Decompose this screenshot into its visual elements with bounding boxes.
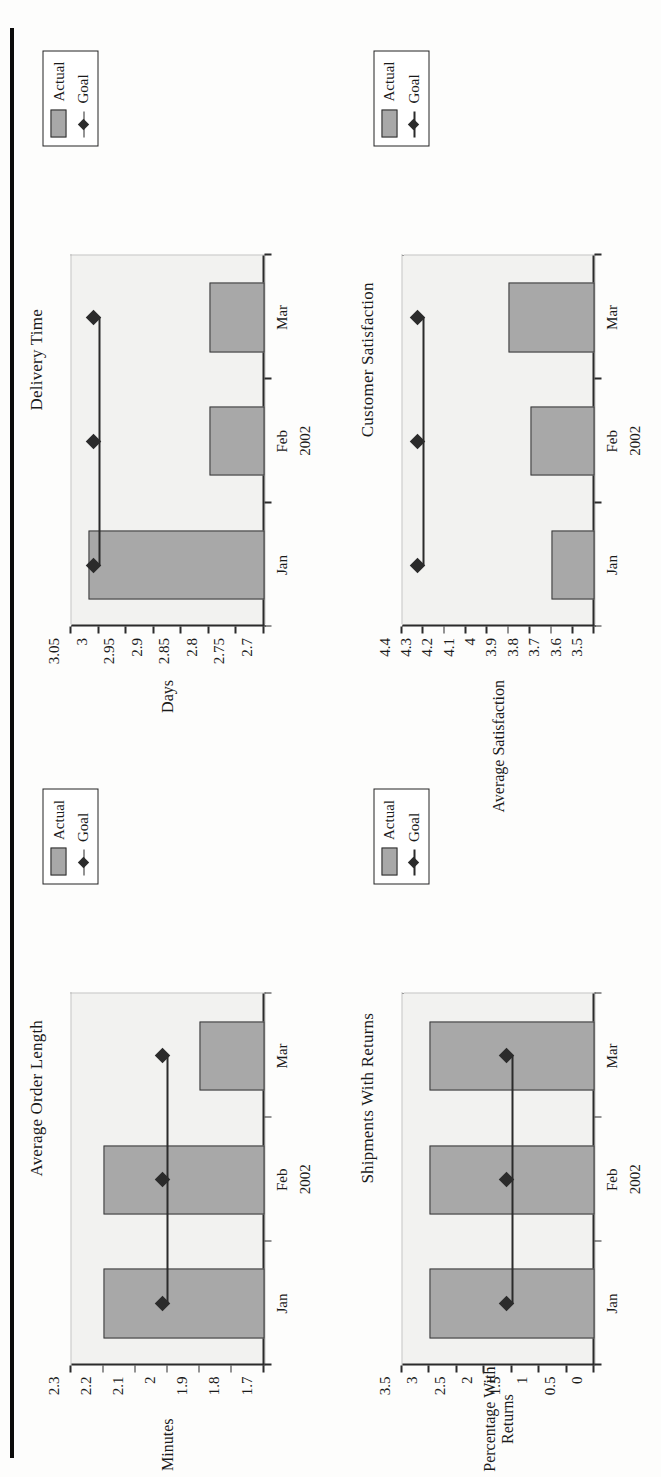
y-tick-mark bbox=[262, 627, 264, 634]
y-tick-label: 4.2 bbox=[419, 638, 436, 657]
goal-line-segment bbox=[166, 1179, 168, 1303]
plot-area: 4.44.34.24.143.93.83.73.63.5 JanFebMar bbox=[401, 254, 596, 627]
x-tick-mark bbox=[594, 625, 601, 627]
y-tick-mark bbox=[464, 627, 466, 634]
chart-legend: Actual Goal bbox=[373, 50, 429, 146]
chart-panel-average-order-length: Average Order Length Actual Goal bbox=[0, 739, 331, 1477]
y-tick-mark bbox=[550, 627, 552, 634]
legend-label-actual: Actual bbox=[381, 800, 396, 840]
legend-bar-swatch-icon bbox=[381, 109, 397, 137]
y-tick-label: 1.7 bbox=[238, 1376, 255, 1395]
legend-label-goal: Goal bbox=[406, 812, 421, 841]
x-tick-label: Mar bbox=[273, 1043, 290, 1068]
legend-bar-swatch-icon bbox=[50, 847, 66, 875]
x-tick-mark bbox=[594, 992, 601, 994]
y-tick-mark bbox=[102, 1365, 104, 1372]
legend-goal-marker-icon bbox=[406, 849, 420, 875]
x-tick-mark bbox=[264, 1240, 271, 1242]
x-axis-group-label: 2002 bbox=[626, 425, 643, 455]
y-tick-label: 3.7 bbox=[526, 638, 543, 657]
y-tick-label: 2.1 bbox=[110, 1376, 127, 1395]
y-tick-mark bbox=[485, 627, 487, 634]
bar-jan bbox=[88, 530, 264, 599]
y-tick-label: 3.9 bbox=[483, 638, 500, 657]
y-tick-label: 2 bbox=[142, 1376, 159, 1384]
legend-label-goal: Goal bbox=[75, 74, 90, 103]
plot-area-wrapper: Percentage With Returns 3.532.521.510.50… bbox=[401, 993, 596, 1366]
y-tick-label: 4 bbox=[462, 638, 479, 646]
y-tick-label: 3.5 bbox=[376, 1376, 393, 1395]
x-tick-mark bbox=[264, 1363, 271, 1365]
legend-entry-goal: Goal bbox=[406, 61, 421, 137]
y-tick-label: 0 bbox=[569, 1376, 586, 1384]
x-tick-label: Feb bbox=[603, 430, 620, 453]
y-tick-label: 2.8 bbox=[183, 638, 200, 657]
x-tick-label: Jan bbox=[273, 1293, 290, 1313]
bar-feb bbox=[530, 406, 594, 475]
y-tick-mark bbox=[400, 1365, 402, 1372]
y-tick-mark bbox=[207, 627, 209, 634]
legend-label-goal: Goal bbox=[406, 74, 421, 103]
legend-label-actual: Actual bbox=[381, 61, 396, 101]
y-tick-mark bbox=[166, 1365, 168, 1372]
plot-area: 3.532.521.510.50 JanFebMar bbox=[401, 993, 596, 1366]
plot-area: 3.0532.952.92.852.82.752.7 JanFebMar bbox=[70, 254, 265, 627]
y-tick-mark bbox=[455, 1365, 457, 1372]
x-tick-mark bbox=[594, 1363, 601, 1365]
scanned-page: Average Order Length Actual Goal bbox=[0, 0, 661, 1477]
chart-legend: Actual Goal bbox=[42, 789, 98, 885]
x-tick-label: Feb bbox=[273, 430, 290, 453]
legend-bar-swatch-icon bbox=[381, 847, 397, 875]
y-tick-mark bbox=[510, 1365, 512, 1372]
goal-line-segment bbox=[422, 317, 424, 441]
x-tick-label: Mar bbox=[603, 1043, 620, 1068]
plot-area-wrapper: Days 3.0532.952.92.852.82.752.7 JanFebMa… bbox=[70, 254, 265, 627]
x-tick-mark bbox=[594, 1116, 601, 1118]
x-tick-mark bbox=[594, 501, 601, 503]
x-tick-mark bbox=[264, 377, 271, 379]
y-tick-mark bbox=[152, 627, 154, 634]
legend-entry-actual: Actual bbox=[381, 61, 397, 137]
y-tick-label: 1.5 bbox=[486, 1376, 503, 1395]
legend-entry-actual: Actual bbox=[50, 800, 66, 876]
legend-label-actual: Actual bbox=[51, 800, 66, 840]
y-tick-label: 1 bbox=[514, 1376, 531, 1384]
x-tick-mark bbox=[264, 625, 271, 627]
legend-goal-marker-icon bbox=[76, 849, 90, 875]
legend-goal-marker-icon bbox=[406, 111, 420, 137]
y-tick-mark bbox=[592, 627, 594, 634]
chart-panel-customer-satisfaction: Customer Satisfaction Actual Goal bbox=[331, 0, 661, 739]
legend-label-goal: Goal bbox=[75, 812, 90, 841]
y-tick-mark bbox=[528, 627, 530, 634]
y-tick-mark bbox=[427, 1365, 429, 1372]
y-tick-mark bbox=[234, 627, 236, 634]
x-tick-label: Jan bbox=[603, 1293, 620, 1313]
x-tick-label: Feb bbox=[603, 1168, 620, 1191]
x-tick-mark bbox=[264, 501, 271, 503]
chart-legend: Actual Goal bbox=[42, 50, 98, 146]
y-tick-mark bbox=[565, 1365, 567, 1372]
y-tick-mark bbox=[421, 627, 423, 634]
y-tick-label: 3.05 bbox=[46, 638, 63, 664]
x-tick-mark bbox=[594, 1240, 601, 1242]
y-tick-label: 4.1 bbox=[440, 638, 457, 657]
bar-jan bbox=[103, 1268, 263, 1337]
bar-feb bbox=[209, 406, 264, 475]
y-tick-label: 2.7 bbox=[238, 638, 255, 657]
x-axis-group-label: 2002 bbox=[626, 1164, 643, 1194]
x-tick-label: Mar bbox=[273, 304, 290, 329]
x-tick-mark bbox=[264, 992, 271, 994]
legend-entry-actual: Actual bbox=[381, 800, 397, 876]
goal-line-segment bbox=[98, 317, 100, 441]
y-tick-label: 3 bbox=[404, 1376, 421, 1384]
x-tick-label: Feb bbox=[273, 1168, 290, 1191]
x-tick-mark bbox=[264, 253, 271, 255]
legend-entry-goal: Goal bbox=[75, 800, 90, 876]
y-tick-label: 3.6 bbox=[547, 638, 564, 657]
y-tick-label: 1.8 bbox=[206, 1376, 223, 1395]
x-tick-mark bbox=[264, 1116, 271, 1118]
goal-line-segment bbox=[166, 1055, 168, 1179]
y-tick-label: 2.2 bbox=[78, 1376, 95, 1395]
y-tick-label: 4.4 bbox=[376, 638, 393, 657]
y-tick-mark bbox=[230, 1365, 232, 1372]
